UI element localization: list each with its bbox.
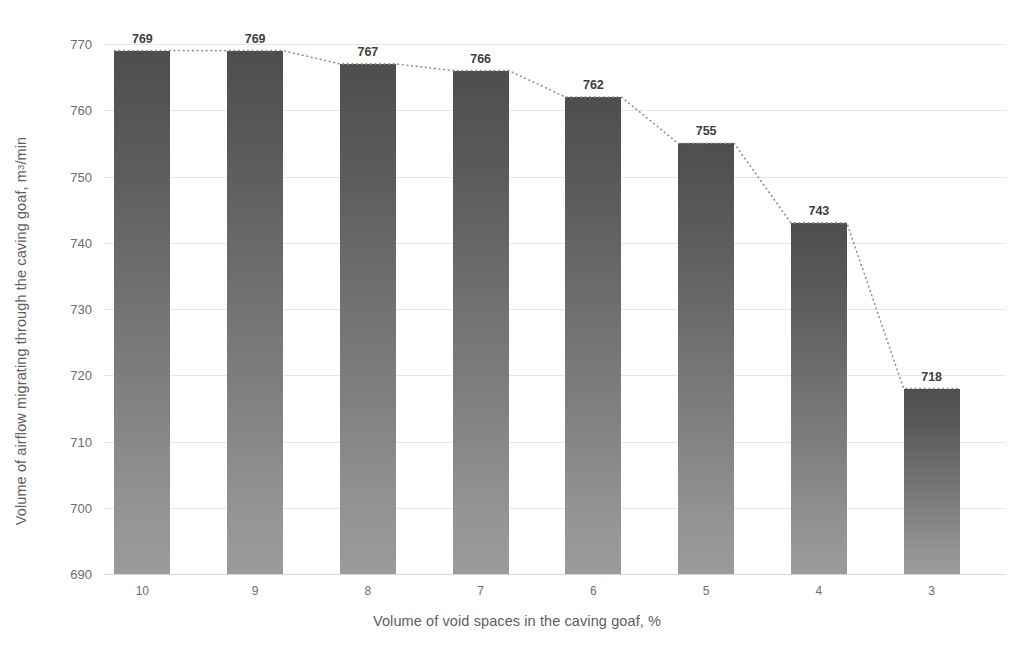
- bar: [453, 71, 509, 575]
- x-axis-tick-label: 5: [656, 584, 756, 598]
- x-axis-line: [104, 574, 1006, 575]
- bar: [340, 64, 396, 574]
- x-axis-tick-label: 7: [431, 584, 531, 598]
- bar-value-label: 755: [656, 124, 756, 138]
- x-axis-tick-label: 10: [92, 584, 192, 598]
- y-axis-title-suffix: /min: [13, 137, 29, 165]
- x-axis-tick-label: 8: [318, 584, 418, 598]
- bar-value-label: 766: [431, 52, 531, 66]
- y-axis-tick-label: 720: [46, 369, 92, 382]
- x-axis-title: Volume of void spaces in the caving goaf…: [0, 613, 1034, 629]
- bar-value-label: 769: [92, 32, 192, 46]
- x-axis-tick-label: 9: [205, 584, 305, 598]
- y-axis-tick-label: 710: [46, 436, 92, 449]
- bar-value-label: 769: [205, 32, 305, 46]
- bar: [678, 143, 734, 574]
- bar: [904, 389, 960, 575]
- y-axis-tick-label: 690: [46, 568, 92, 581]
- y-axis-tick-label: 730: [46, 303, 92, 316]
- y-axis-tick-label: 700: [46, 502, 92, 515]
- plot-area: 770760750740730720710700690 769769767766…: [104, 44, 1006, 574]
- chart-container: Volume of airflow migrating through the …: [0, 0, 1034, 662]
- bar-value-label: 718: [882, 370, 982, 384]
- y-axis-title: Volume of airflow migrating through the …: [0, 0, 42, 662]
- x-axis-tick-label: 3: [882, 584, 982, 598]
- y-axis-tick-label: 770: [46, 38, 92, 51]
- x-axis-tick-label: 4: [769, 584, 869, 598]
- y-axis-tick-label: 760: [46, 104, 92, 117]
- bar: [114, 51, 170, 574]
- x-axis-tick-label: 6: [543, 584, 643, 598]
- bar-value-label: 743: [769, 204, 869, 218]
- bar: [791, 223, 847, 574]
- y-axis-tick-label: 750: [46, 171, 92, 184]
- bar-value-label: 762: [543, 78, 643, 92]
- y-axis-title-text: Volume of airflow migrating through the …: [13, 170, 29, 525]
- y-axis-tick-label: 740: [46, 237, 92, 250]
- bar-value-label: 767: [318, 45, 418, 59]
- bar: [565, 97, 621, 574]
- bar: [227, 51, 283, 574]
